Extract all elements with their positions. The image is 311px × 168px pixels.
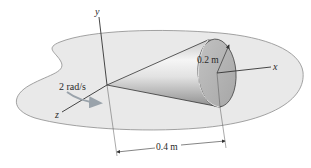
x-axis-label: x: [272, 61, 278, 72]
z-axis-label: z: [54, 109, 59, 120]
y-axis-label: y: [94, 6, 100, 17]
cone-diagram: y x z 0.2 m 2 rad/s 0.4 m: [0, 0, 311, 168]
dimension-line-right: [181, 141, 225, 145]
angular-velocity-label: 2 rad/s: [59, 81, 86, 92]
length-label: 0.4 m: [156, 142, 178, 152]
radius-label: 0.2 m: [197, 55, 219, 65]
dimension-line-left: [117, 148, 155, 152]
